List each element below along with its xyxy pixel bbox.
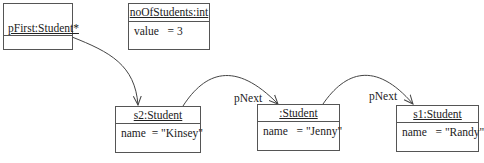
object-title: s1:Student	[397, 106, 478, 123]
link-label-pnext: pNext	[369, 90, 397, 102]
object-s1[interactable]: s1:Student name = "Randy"	[396, 105, 479, 152]
object-s2[interactable]: s2:Student name = "Kinsey"	[115, 106, 201, 153]
object-title: s2:Student	[116, 107, 200, 124]
object-anon-student[interactable]: :Student name = "Jenny"	[257, 104, 340, 151]
object-noofstudents[interactable]: noOfStudents:int value = 3	[128, 3, 210, 50]
object-pfirst[interactable]: pFirst:Student*	[3, 3, 73, 50]
object-title: :Student	[258, 105, 339, 122]
object-title: pFirst:Student*	[4, 21, 72, 36]
link-label-pnext: pNext	[234, 92, 262, 104]
object-title: noOfStudents:int	[129, 4, 209, 22]
link-anon-to-s1	[323, 75, 413, 104]
object-attribute: value = 3	[134, 24, 183, 38]
object-attribute: name = "Kinsey"	[121, 126, 203, 140]
object-attribute: name = "Jenny"	[263, 124, 342, 138]
object-attribute: name = "Randy"	[402, 125, 484, 139]
link-s2-to-anon	[183, 76, 278, 106]
